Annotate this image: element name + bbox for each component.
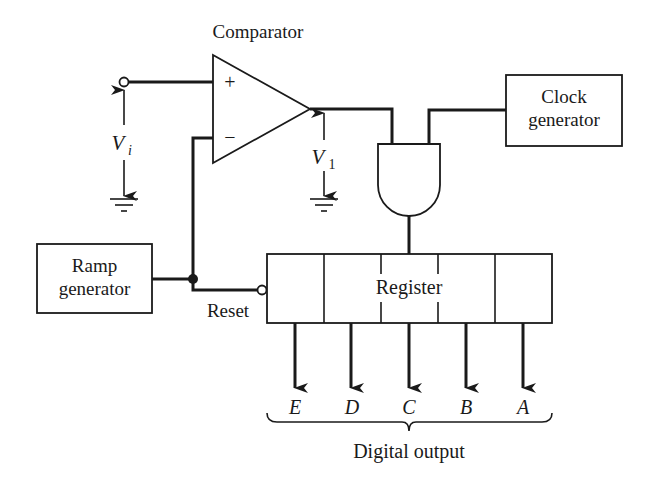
output-arrows <box>295 323 523 388</box>
v1-label: V <box>312 145 327 169</box>
and-gate <box>378 144 440 216</box>
v1-indicator: V 1 <box>310 113 338 211</box>
ramp-generator-box: Ramp generator <box>37 244 152 313</box>
svg-text:Clock: Clock <box>541 86 587 107</box>
reset-wire <box>193 279 258 290</box>
vi-label: V <box>112 131 127 155</box>
v1-subscript: 1 <box>329 157 336 172</box>
comparator-opamp: + − <box>213 55 310 163</box>
reset-bubble <box>258 286 267 295</box>
register-box: Register <box>267 254 552 323</box>
comparator-output-wire <box>310 109 392 144</box>
vi-subscript: i <box>128 143 132 158</box>
clock-output-wire <box>429 110 506 144</box>
vi-indicator: V i <box>110 90 138 211</box>
svg-text:generator: generator <box>528 109 600 130</box>
adc-block-diagram: Comparator + − Ramp generator Reset V i <box>0 0 654 481</box>
output-bit-d: D <box>344 396 360 418</box>
reset-label: Reset <box>207 300 250 321</box>
minus-sign: − <box>224 126 235 148</box>
output-bit-a: A <box>515 396 530 418</box>
ramp-to-comparator-wire <box>193 138 213 279</box>
output-bit-c: C <box>402 396 416 418</box>
clock-generator-box: Clock generator <box>506 75 622 146</box>
digital-output-label: Digital output <box>353 440 465 463</box>
register-label: Register <box>376 276 443 299</box>
plus-sign: + <box>224 71 235 93</box>
svg-text:Ramp: Ramp <box>72 255 117 276</box>
output-bit-e: E <box>288 396 301 418</box>
input-terminal <box>120 78 214 87</box>
svg-text:generator: generator <box>59 278 131 299</box>
comparator-title: Comparator <box>213 21 304 42</box>
output-bit-b: B <box>460 396 472 418</box>
